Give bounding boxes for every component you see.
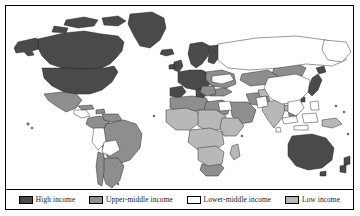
legend-swatch-high-income xyxy=(19,196,33,204)
legend-label-low-income: Low income xyxy=(302,196,340,203)
island-dot-7 xyxy=(117,183,119,185)
region-ireland xyxy=(169,64,174,69)
region-philippines xyxy=(310,101,319,110)
island-dot-2 xyxy=(31,127,33,129)
island-dot-6 xyxy=(335,105,337,107)
region-tasmania xyxy=(320,171,326,176)
island-dot-4 xyxy=(241,135,243,137)
legend-item-low-income[interactable]: Low income xyxy=(285,196,340,204)
map-canvas xyxy=(6,6,353,189)
legend-swatch-lower-middle-income xyxy=(187,196,201,204)
legend-label-lower-middle-income: Lower-middle income xyxy=(204,196,272,203)
region-new-zealand-south xyxy=(340,165,346,173)
region-indonesia-java xyxy=(294,125,308,130)
island-dot-8 xyxy=(347,133,349,135)
map-legend: High income Upper-middle income Lower-mi… xyxy=(6,190,353,210)
world-map-svg xyxy=(6,6,353,189)
region-egypt xyxy=(218,101,232,111)
region-new-zealand xyxy=(344,156,350,166)
legend-label-upper-middle-income: Upper-middle income xyxy=(106,196,173,203)
figure-frame: High income Upper-middle income Lower-mi… xyxy=(5,5,354,210)
island-dot-5 xyxy=(343,111,345,113)
world-income-map-figure: High income Upper-middle income Lower-mi… xyxy=(0,0,360,216)
legend-item-lower-middle-income[interactable]: Lower-middle income xyxy=(187,196,272,204)
region-pakistan xyxy=(256,96,268,108)
region-sri-lanka xyxy=(276,127,281,132)
legend-swatch-upper-middle-income xyxy=(89,196,103,204)
legend-item-upper-middle-income[interactable]: Upper-middle income xyxy=(89,196,173,204)
island-dot-3 xyxy=(153,115,155,117)
region-hispaniola xyxy=(96,109,105,114)
legend-label-high-income: High income xyxy=(36,196,75,203)
legend-item-high-income[interactable]: High income xyxy=(19,196,75,204)
island-dot-1 xyxy=(27,123,29,125)
region-indonesia-borneo xyxy=(302,113,318,123)
legend-swatch-low-income xyxy=(285,196,299,204)
